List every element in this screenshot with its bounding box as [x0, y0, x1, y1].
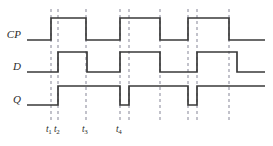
gridline-group: [51, 9, 229, 121]
time-marker-subscript: 2: [56, 128, 60, 136]
timing-diagram-figure: CPDQ t1t2t3t4: [0, 0, 273, 146]
time-marker-subscript: 1: [48, 128, 52, 136]
waveform-canvas: [0, 0, 273, 146]
time-marker-subscript: 4: [118, 128, 122, 136]
time-marker-t1: t1: [46, 124, 52, 134]
time-marker-subscript: 3: [84, 128, 88, 136]
time-marker-t4: t4: [116, 124, 122, 134]
waveform-group: [27, 18, 265, 105]
time-marker-t3: t3: [82, 124, 88, 134]
signal-label-cp: CP: [7, 28, 21, 40]
signal-label-d: D: [13, 60, 21, 72]
time-marker-t2: t2: [54, 124, 60, 134]
waveform-cp: [27, 18, 265, 40]
signal-label-q: Q: [13, 93, 21, 105]
